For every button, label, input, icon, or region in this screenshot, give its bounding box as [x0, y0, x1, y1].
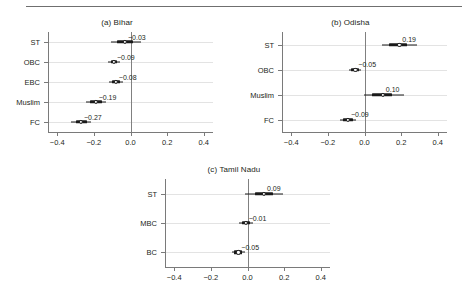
x-axis-tick-label: 0.4 — [199, 138, 209, 147]
y-axis-label: FC — [264, 115, 274, 124]
x-tick — [167, 132, 168, 136]
point-estimate-value: 0.19 — [402, 36, 416, 43]
point-estimate-value: −0.05 — [241, 244, 259, 251]
x-axis-tick-label: −0.4 — [50, 138, 65, 147]
point-estimate-marker — [262, 192, 266, 196]
x-axis-tick-label: 0.0 — [242, 273, 252, 282]
y-axis-label: Muslim — [16, 98, 40, 107]
x-axis-tick-label: 0.4 — [433, 138, 443, 147]
panel-bihar: (a) Bihar STOBCEBCMuslimFC−0.4−0.20.00.2… — [0, 18, 234, 148]
x-axis-tick-label: 0.4 — [316, 273, 326, 282]
point-estimate-marker — [381, 92, 385, 96]
point-estimate-marker — [236, 250, 240, 254]
y-tick — [278, 95, 282, 96]
x-tick — [94, 132, 95, 136]
y-axis-label: Muslim — [250, 90, 274, 99]
y-tick — [278, 70, 282, 71]
point-estimate-value: −0.19 — [99, 94, 117, 101]
zero-reference-line — [131, 32, 132, 132]
point-estimate-marker — [94, 100, 98, 104]
x-tick — [174, 267, 175, 271]
point-estimate-value: 0.09 — [267, 185, 281, 192]
point-estimate-value: −0.27 — [84, 114, 102, 121]
y-axis-label: ST — [30, 38, 40, 47]
point-estimate-marker — [397, 42, 401, 46]
y-axis-label: OBC — [24, 58, 40, 67]
y-tick — [44, 102, 48, 103]
x-tick — [291, 132, 292, 136]
y-tick — [44, 82, 48, 83]
y-tick — [161, 194, 165, 195]
plot-area: STOBCEBCMuslimFC−0.4−0.20.00.20.4−0.03−0… — [48, 32, 213, 132]
x-tick — [328, 132, 329, 136]
y-axis-label: MBC — [140, 219, 157, 228]
y-tick — [278, 120, 282, 121]
point-estimate-value: −0.09 — [117, 54, 135, 61]
y-axis-line — [165, 179, 166, 267]
point-estimate-value: −0.08 — [119, 74, 137, 81]
x-axis-tick-label: −0.2 — [320, 138, 335, 147]
x-axis-tick-label: −0.4 — [284, 138, 299, 147]
x-tick — [321, 267, 322, 271]
x-tick — [248, 267, 249, 271]
x-tick — [438, 132, 439, 136]
y-tick — [44, 122, 48, 123]
x-tick — [284, 267, 285, 271]
y-axis-label: ST — [264, 40, 274, 49]
x-axis-tick-label: −0.2 — [86, 138, 101, 147]
x-tick — [211, 267, 212, 271]
y-tick — [44, 42, 48, 43]
point-estimate-marker — [114, 80, 118, 84]
x-axis-tick-label: 0.2 — [396, 138, 406, 147]
x-tick — [365, 132, 366, 136]
x-axis-tick-label: −0.2 — [203, 273, 218, 282]
x-axis-tick-label: −0.4 — [167, 273, 182, 282]
header-rule — [26, 6, 462, 7]
point-estimate-marker — [346, 117, 350, 121]
point-estimate-value: −0.05 — [358, 61, 376, 68]
x-axis-tick-label: 0.0 — [359, 138, 369, 147]
point-estimate-marker — [123, 40, 127, 44]
point-estimate-marker — [112, 60, 116, 64]
plot-area: STOBCMuslimFC−0.4−0.20.00.20.40.19−0.050… — [282, 32, 447, 132]
x-tick — [204, 132, 205, 136]
point-estimate-value: −0.01 — [249, 215, 267, 222]
y-axis-line — [282, 32, 283, 132]
y-axis-label: BC — [147, 248, 157, 257]
y-tick — [278, 45, 282, 46]
plot-area: STMBCBC−0.4−0.20.00.20.40.09−0.01−0.05 — [165, 179, 330, 267]
y-tick — [44, 62, 48, 63]
y-axis-label: FC — [30, 118, 40, 127]
point-estimate-value: 0.10 — [386, 86, 400, 93]
panel-title: (b) Odisha — [234, 18, 467, 27]
x-axis-tick-label: 0.0 — [125, 138, 135, 147]
y-axis-label: OBC — [258, 65, 274, 74]
x-tick — [57, 132, 58, 136]
panel-odisha: (b) Odisha STOBCMuslimFC−0.4−0.20.00.20.… — [234, 18, 467, 148]
x-tick — [401, 132, 402, 136]
panel-tamil-nadu: (c) Tamil Nadu STMBCBC−0.4−0.20.00.20.40… — [117, 165, 351, 295]
y-tick — [161, 223, 165, 224]
x-tick — [131, 132, 132, 136]
point-estimate-marker — [353, 67, 357, 71]
y-axis-label: EBC — [25, 78, 40, 87]
panel-title: (a) Bihar — [0, 18, 234, 27]
point-estimate-value: −0.03 — [128, 34, 146, 41]
point-estimate-value: −0.09 — [351, 111, 369, 118]
point-estimate-marker — [79, 120, 83, 124]
y-axis-label: ST — [147, 189, 157, 198]
y-axis-line — [48, 32, 49, 132]
x-axis-tick-label: 0.2 — [279, 273, 289, 282]
panel-title: (c) Tamil Nadu — [117, 165, 351, 174]
x-axis-tick-label: 0.2 — [162, 138, 172, 147]
y-tick — [161, 252, 165, 253]
